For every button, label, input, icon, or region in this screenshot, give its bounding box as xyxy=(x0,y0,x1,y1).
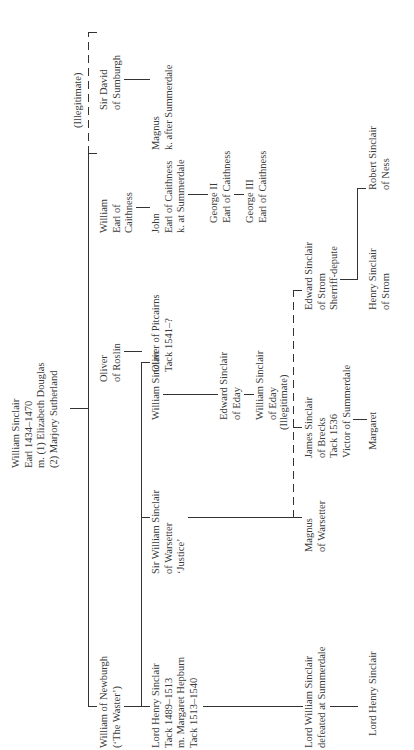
node-line: defeated at Summerdale xyxy=(316,647,329,748)
node-george-ii: George II Earl of Caithness xyxy=(208,151,233,223)
node-robert-ness: Robert Sinclair of Ness xyxy=(367,126,392,190)
node-edward-strom: Edward Sinclair of Strom Sherriff-depute xyxy=(303,242,341,310)
node-james-brecks: James Sinclair of Brecks Tack 1536 Victo… xyxy=(303,365,353,458)
node-line: William Sinclair xyxy=(10,362,23,468)
connector xyxy=(188,194,208,195)
node-line: Magnus xyxy=(303,501,316,552)
connector xyxy=(293,427,302,428)
node-henry-strom: Henry Sinclair of Strom xyxy=(367,248,392,310)
illegitimate-label: (Illegitimate) xyxy=(278,375,289,430)
connector xyxy=(163,394,218,395)
node-line: Robert Sinclair xyxy=(367,126,380,190)
connector xyxy=(340,279,358,280)
node-william-eday: William Sinclair of Eday xyxy=(254,351,279,420)
node-line: Tack 1513–1540 xyxy=(188,657,201,748)
family-tree-diagram: William Sinclair Earl 1434–1470 m. (1) E… xyxy=(0,0,414,750)
node-line: Earl 1434–1470 xyxy=(23,362,36,468)
node-lord-william-sinclair: Lord William Sinclair defeated at Summer… xyxy=(303,647,328,748)
connector xyxy=(357,188,358,280)
node-line: George III xyxy=(244,151,257,223)
node-line: Sir David xyxy=(98,55,111,110)
node-line: Victor of Summerdale xyxy=(341,365,354,458)
node-line: k. after Summerdale xyxy=(163,65,176,150)
node-line: George II xyxy=(208,151,221,223)
node-line: William Sinclair xyxy=(254,351,267,420)
connector xyxy=(357,188,366,189)
node-john-earl-caithness: John Earl of Caithness k. at Summerdale xyxy=(150,159,188,233)
connector xyxy=(188,517,294,518)
node-line: Lord Henry Sinclair xyxy=(150,657,163,748)
connector xyxy=(124,79,150,80)
node-line: Tack 1536 xyxy=(328,365,341,458)
node-line: Earl of xyxy=(111,192,124,233)
node-line: of Strom xyxy=(380,248,393,310)
connector xyxy=(141,517,150,518)
node-line: William xyxy=(98,192,111,233)
node-line: Tack 1541–? xyxy=(163,294,176,372)
node-line: Caithness xyxy=(123,192,136,233)
node-lord-henry-sinclair-2: Lord Henry Sinclair xyxy=(367,651,380,736)
node-line: Lord William Sinclair xyxy=(303,647,316,748)
node-line: John xyxy=(150,159,163,233)
node-william-sinclair-earl: William Sinclair Earl 1434–1470 m. (1) E… xyxy=(10,362,60,468)
node-line: ‘Justice’ xyxy=(175,490,188,574)
node-edward-eday: Edward Sinclair of Eday xyxy=(218,352,243,420)
dashed-connector xyxy=(293,290,294,518)
node-line: Oliver of Pitcairns xyxy=(150,294,163,372)
node-line: Earl of Caithness xyxy=(257,151,270,223)
node-line: Henry Sinclair xyxy=(367,248,380,310)
node-line: of Brecks xyxy=(316,365,329,458)
connector xyxy=(141,362,150,363)
connector xyxy=(293,290,302,291)
connector xyxy=(141,706,150,707)
node-oliver-roslin: Oliver of Roslin xyxy=(98,343,123,382)
node-line: Margaret xyxy=(367,412,380,450)
node-line: of Sumburgh xyxy=(111,55,124,110)
connector xyxy=(353,419,367,420)
node-line: of Warsetter xyxy=(163,490,176,574)
node-line: Earl of Caithness xyxy=(163,159,176,233)
node-william-earl-caithness: William Earl of Caithness xyxy=(98,192,136,233)
node-line: m. Margaret Hepburn xyxy=(175,657,188,748)
node-line: m. (1) Elizabeth Douglas xyxy=(35,362,48,468)
node-line: of Eday xyxy=(231,352,244,420)
connector xyxy=(244,394,254,395)
node-line: Sherriff-depute xyxy=(328,242,341,310)
node-line: Magnus xyxy=(150,65,163,150)
node-william-warsetter: Sir William Sinclair of Warsetter ‘Justi… xyxy=(150,490,188,574)
node-line: James Sinclair xyxy=(303,365,316,458)
node-line: k. at Summerdale xyxy=(175,159,188,233)
node-oliver-pitcairns: Oliver of Pitcairns Tack 1541–? xyxy=(150,294,175,372)
node-magnus-warsetter: Magnus of Warsetter xyxy=(303,501,328,552)
node-line: of Strom xyxy=(316,242,329,310)
node-line: Tack 1489–1513 xyxy=(163,657,176,748)
connector xyxy=(234,194,244,195)
node-line: Edward Sinclair xyxy=(218,352,231,420)
node-line: Earl of Caithness xyxy=(221,151,234,223)
node-george-iii: George III Earl of Caithness xyxy=(244,151,269,223)
node-william-newburgh: William of Newburgh (‘The Waster’) xyxy=(98,656,123,748)
connector xyxy=(330,706,358,707)
node-magnus-sumburgh: Magnus k. after Summerdale xyxy=(150,65,175,150)
connector xyxy=(124,706,142,707)
node-lord-henry-sinclair: Lord Henry Sinclair Tack 1489–1513 m. Ma… xyxy=(150,657,200,748)
node-margaret: Margaret xyxy=(367,412,380,450)
node-line: Sir William Sinclair xyxy=(150,490,163,574)
node-line: Lord Henry Sinclair xyxy=(367,651,380,736)
connector xyxy=(88,32,97,33)
connector xyxy=(136,207,150,208)
connector xyxy=(141,362,142,707)
node-line: of Warsetter xyxy=(316,501,329,552)
node-line: Edward Sinclair xyxy=(303,242,316,310)
node-line: of Roslin xyxy=(111,343,124,382)
node-line: Oliver xyxy=(98,343,111,382)
connector xyxy=(88,153,89,707)
node-line: (‘The Waster’) xyxy=(111,656,124,748)
dashed-connector xyxy=(88,32,89,154)
connector xyxy=(203,706,303,707)
node-line: William of Newburgh xyxy=(98,656,111,748)
connector xyxy=(88,706,97,707)
node-david-sumburgh: Sir David of Sumburgh xyxy=(98,55,123,110)
connector xyxy=(293,517,302,518)
connector xyxy=(124,351,142,352)
